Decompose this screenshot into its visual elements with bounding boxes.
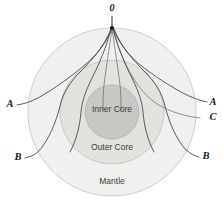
earth-cross-section: 0 Inner Core Outer Core Mantle A A C B B: [0, 0, 223, 207]
source-label: 0: [110, 2, 115, 13]
mantle-label: Mantle: [99, 176, 125, 186]
ray-label-a-right: A: [208, 96, 216, 107]
ray-label-b-left: B: [13, 151, 21, 162]
ray-label-b-right: B: [201, 150, 209, 161]
inner-core-label: Inner Core: [92, 104, 132, 114]
outer-core-label: Outer Core: [91, 142, 133, 152]
ray-label-c-right: C: [209, 111, 217, 122]
ray-label-a-left: A: [5, 98, 13, 109]
seismic-ray-diagram: 0 Inner Core Outer Core Mantle A A C B B: [0, 0, 223, 207]
